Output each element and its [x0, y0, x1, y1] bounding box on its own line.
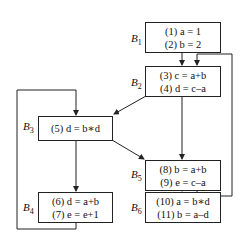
block-label-b3: B3 — [23, 120, 34, 135]
basic-block-b3: (5) d = b∗d — [38, 116, 113, 141]
label-main: B — [23, 201, 30, 213]
label-main: B — [131, 76, 138, 88]
label-sub: 3 — [30, 126, 34, 135]
label-sub: 5 — [138, 174, 142, 183]
statement: (9) e = c–a — [160, 176, 205, 189]
basic-block-b1: (1) a = 1 (2) b = 2 — [145, 22, 221, 53]
block-label-b1: B1 — [131, 32, 142, 47]
block-label-b4: B4 — [23, 201, 34, 216]
statement: (5) d = b∗d — [51, 122, 100, 135]
basic-block-b5: (8) b = a+b (9) e = c–a — [145, 160, 221, 191]
basic-block-b4: (6) d = a+b (7) e = e+1 — [38, 192, 113, 223]
edge-b2-b3 — [114, 96, 146, 114]
basic-block-b2: (3) c = a+b (4) d = c–a — [145, 66, 221, 97]
edge-b3-b5 — [112, 140, 144, 159]
statement: (7) e = e+1 — [52, 208, 99, 221]
label-main: B — [131, 32, 138, 44]
label-main: B — [131, 168, 138, 180]
label-main: B — [23, 120, 30, 132]
statement: (10) a = b∗d — [156, 195, 210, 208]
label-sub: 6 — [138, 207, 142, 216]
statement: (1) a = 1 — [165, 25, 201, 38]
statement: (4) d = c–a — [160, 82, 206, 95]
statement: (8) b = a+b — [159, 163, 206, 176]
statement: (6) d = a+b — [52, 195, 99, 208]
label-sub: 2 — [138, 82, 142, 91]
statement: (11) b = a–d — [157, 208, 208, 221]
label-sub: 4 — [30, 207, 34, 216]
basic-block-b6: (10) a = b∗d (11) b = a–d — [145, 192, 221, 223]
label-sub: 1 — [138, 38, 142, 47]
block-label-b6: B6 — [131, 201, 142, 216]
statement: (2) b = 2 — [165, 38, 202, 51]
block-label-b2: B2 — [131, 76, 142, 91]
block-label-b5: B5 — [131, 168, 142, 183]
statement: (3) c = a+b — [160, 69, 207, 82]
label-main: B — [131, 201, 138, 213]
